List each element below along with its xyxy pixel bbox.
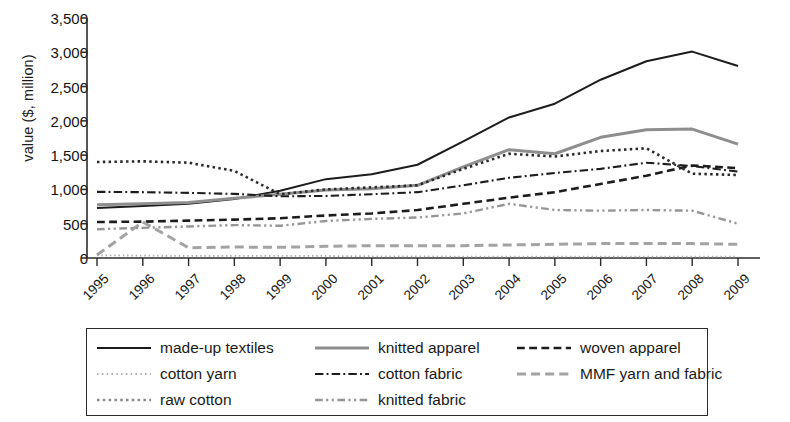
legend-label: cotton yarn — [160, 366, 237, 382]
legend-line-swatch — [313, 341, 371, 355]
legend-line-swatch — [95, 341, 153, 355]
legend-label: cotton fabric — [378, 366, 462, 382]
legend-label: raw cotton — [160, 392, 232, 408]
x-tick-label: 1999 — [253, 271, 295, 313]
legend-item-cotton-fabric[interactable]: cotton fabric — [313, 362, 462, 386]
legend-label: knitted fabric — [378, 392, 466, 408]
line-chart: value ($, million) 05001,0001,5002,0002,… — [0, 0, 790, 422]
legend-line-swatch — [313, 367, 371, 381]
legend-line-swatch — [515, 341, 573, 355]
legend-line-swatch — [313, 393, 371, 407]
x-tick-label: 2007 — [619, 271, 661, 313]
chart-legend: made-up textilescotton yarnraw cottonkni… — [86, 328, 708, 416]
x-tick-label: 2004 — [482, 271, 524, 313]
x-tick-label: 2000 — [299, 271, 341, 313]
legend-item-woven-apparel[interactable]: woven apparel — [515, 336, 681, 360]
legend-item-made-up-textiles[interactable]: made-up textiles — [95, 336, 274, 360]
x-axis-tick-labels: 1995199619971998199920002001200220032004… — [0, 0, 790, 330]
legend-label: knitted apparel — [378, 340, 480, 356]
legend-line-swatch — [515, 367, 573, 381]
x-tick-label: 1998 — [207, 271, 249, 313]
legend-item-mmf-yarn-and-fabric[interactable]: MMF yarn and fabric — [515, 362, 722, 386]
x-tick-label: 1997 — [161, 271, 203, 313]
legend-label: MMF yarn and fabric — [580, 366, 722, 382]
legend-item-raw-cotton[interactable]: raw cotton — [95, 388, 232, 412]
legend-line-swatch — [95, 393, 153, 407]
legend-line-swatch — [95, 367, 153, 381]
legend-item-cotton-yarn[interactable]: cotton yarn — [95, 362, 237, 386]
x-tick-label: 2003 — [436, 271, 478, 313]
x-tick-label: 1996 — [116, 271, 158, 313]
x-tick-label: 2005 — [528, 271, 570, 313]
x-tick-label: 2009 — [711, 271, 753, 313]
x-tick-label: 2008 — [665, 271, 707, 313]
legend-item-knitted-apparel[interactable]: knitted apparel — [313, 336, 480, 360]
x-tick-label: 1995 — [70, 271, 112, 313]
x-tick-label: 2002 — [390, 271, 432, 313]
x-tick-label: 2006 — [574, 271, 616, 313]
legend-label: made-up textiles — [160, 340, 274, 356]
x-tick-label: 2001 — [345, 271, 387, 313]
legend-label: woven apparel — [580, 340, 681, 356]
legend-item-knitted-fabric[interactable]: knitted fabric — [313, 388, 466, 412]
